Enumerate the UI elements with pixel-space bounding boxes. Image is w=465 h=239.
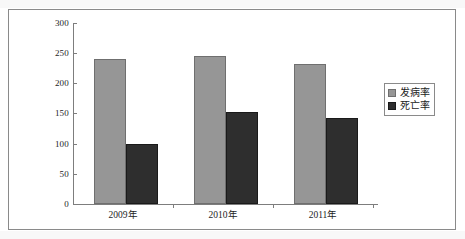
bar-2009-incidence[interactable] <box>94 59 126 204</box>
y-tick-label-150: 150 <box>29 109 69 118</box>
x-tick-label-2009: 2009年 <box>75 210 171 221</box>
y-tick-label-100-wrap: 100 <box>25 140 69 149</box>
chart-screenshot: 300 250 200 150 100 50 0 <box>0 0 465 239</box>
y-tick-label-200-wrap: 200 <box>25 79 69 88</box>
x-tick-label-2010: 2010年 <box>175 210 271 221</box>
y-tick-label-100: 100 <box>29 140 69 149</box>
plot-area <box>73 23 378 204</box>
x-tick-3 <box>373 204 374 208</box>
y-tick-label-250: 250 <box>29 49 69 58</box>
y-tick-label-0-wrap: 0 <box>25 200 69 209</box>
bar-2010-mortality[interactable] <box>226 112 258 204</box>
y-tick-label-50: 50 <box>29 170 69 179</box>
legend-item-mortality[interactable]: 死亡率 <box>388 99 430 112</box>
legend-swatch-mortality-icon <box>388 102 396 110</box>
y-tick-label-300-wrap: 300 <box>25 19 69 28</box>
bar-2011-mortality[interactable] <box>326 118 358 204</box>
y-tick-0 <box>73 204 77 205</box>
bar-2010-incidence[interactable] <box>194 56 226 204</box>
y-tick-label-0: 0 <box>29 200 69 209</box>
bar-2011-incidence[interactable] <box>294 64 326 204</box>
y-tick-label-150-wrap: 150 <box>25 109 69 118</box>
y-tick-label-200: 200 <box>29 79 69 88</box>
scan-noise-band-top <box>0 0 465 8</box>
legend-item-incidence[interactable]: 发病率 <box>388 86 430 99</box>
figure-frame: 300 250 200 150 100 50 0 <box>8 9 456 230</box>
y-tick-label-50-wrap: 50 <box>25 170 69 179</box>
x-tick-label-2011: 2011年 <box>275 210 371 221</box>
scan-noise-band-bottom <box>0 231 465 239</box>
y-tick-label-250-wrap: 250 <box>25 49 69 58</box>
x-tick-2 <box>273 204 274 208</box>
x-tick-1 <box>173 204 174 208</box>
x-axis-line <box>73 204 378 205</box>
legend-swatch-incidence-icon <box>388 89 396 97</box>
legend: 发病率 死亡率 <box>384 83 435 116</box>
bar-2009-mortality[interactable] <box>126 144 158 204</box>
legend-label-incidence: 发病率 <box>400 87 430 98</box>
y-tick-label-300: 300 <box>29 19 69 28</box>
legend-label-mortality: 死亡率 <box>400 100 430 111</box>
